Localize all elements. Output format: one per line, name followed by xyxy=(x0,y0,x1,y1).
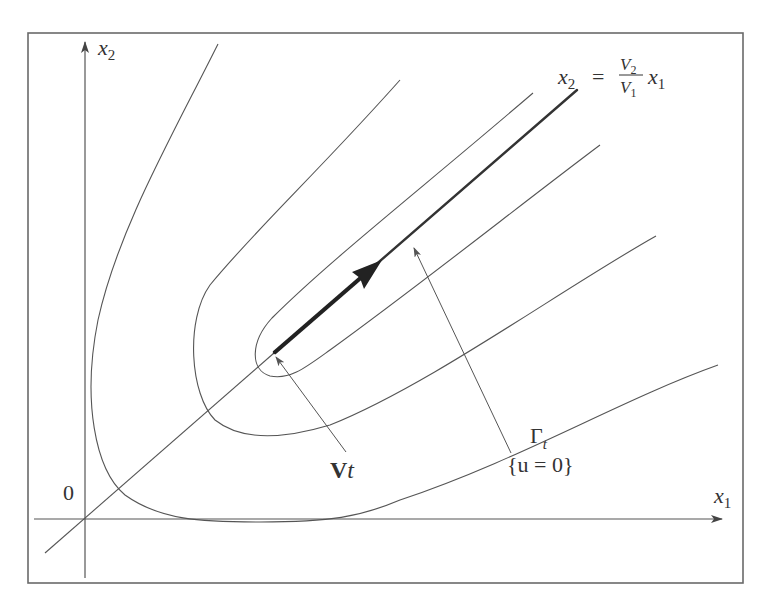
bounding-frame xyxy=(28,33,743,583)
ratio-line xyxy=(45,353,274,553)
diagram-canvas: x2 x1 0 x2 = V2 V1 x1 Vt Γt {u = 0} xyxy=(0,0,774,616)
x1-axis-label: x1 xyxy=(713,483,731,511)
level-curve-3 xyxy=(91,44,718,522)
vt-pointer xyxy=(276,357,346,452)
x2-axis-label: x2 xyxy=(97,35,115,63)
zero-set-label: {u = 0} xyxy=(507,452,574,477)
velocity-vector-arrowhead xyxy=(352,260,382,289)
svg-text:=: = xyxy=(592,64,604,89)
level-curve-1 xyxy=(255,93,600,377)
svg-text:x1: x1 xyxy=(647,64,665,92)
gamma-label: Γt xyxy=(530,423,548,452)
origin-label: 0 xyxy=(63,480,74,505)
level-curve-2 xyxy=(194,80,656,436)
svg-text:V2: V2 xyxy=(620,55,636,77)
vt-label: Vt xyxy=(330,457,355,483)
svg-text:x2: x2 xyxy=(557,64,575,92)
svg-text:V1: V1 xyxy=(620,78,636,100)
velocity-vector-shaft xyxy=(274,275,364,353)
gamma-pointer xyxy=(414,248,511,453)
